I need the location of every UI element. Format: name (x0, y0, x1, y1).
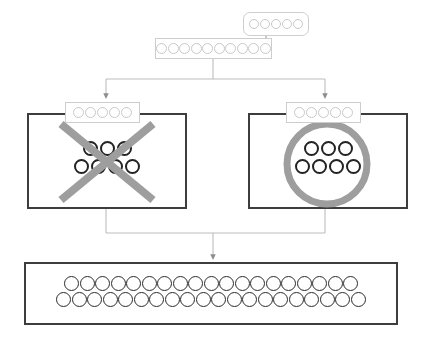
token-circle (72, 292, 87, 307)
branch-connector-right (213, 79, 325, 96)
token-circle (351, 292, 366, 307)
token-row (287, 103, 360, 122)
token-circle (91, 159, 106, 174)
token-circle (225, 43, 236, 54)
token-circle (64, 276, 79, 291)
token-row (295, 159, 361, 174)
token-circle (56, 292, 71, 307)
branch-header-box (286, 102, 361, 123)
token-circle (237, 43, 248, 54)
token-row (66, 103, 139, 122)
token-circle (289, 292, 304, 307)
token-circle (191, 43, 202, 54)
token-circle (260, 43, 271, 54)
token-circle (271, 19, 281, 29)
token-circle (156, 43, 167, 54)
token-circle (306, 107, 317, 118)
token-stack (26, 276, 396, 307)
branch-connector-left (106, 59, 213, 96)
token-circle (204, 276, 219, 291)
token-circle (321, 141, 336, 156)
token-circle (297, 276, 312, 291)
accepted-branch-box (248, 113, 408, 209)
token-circle (202, 43, 213, 54)
token-circle (73, 107, 84, 118)
token-circle (95, 276, 110, 291)
token-circle (329, 159, 344, 174)
token-circle (338, 141, 353, 156)
token-row (83, 141, 132, 156)
token-circle (320, 292, 335, 307)
token-row (74, 159, 140, 174)
token-row (156, 39, 271, 58)
token-circle (318, 107, 329, 118)
token-circle (134, 292, 149, 307)
token-circle (117, 141, 132, 156)
token-row (244, 13, 308, 35)
token-circle (227, 292, 242, 307)
token-row (64, 276, 358, 291)
token-stack (29, 141, 185, 174)
token-circle (188, 276, 203, 291)
token-circle (273, 292, 288, 307)
token-circle (214, 43, 225, 54)
token-circle (235, 276, 250, 291)
token-circle (179, 43, 190, 54)
token-stack (250, 141, 406, 174)
token-row (56, 292, 366, 307)
token-circle (103, 292, 118, 307)
token-circle (242, 292, 257, 307)
token-circle (118, 292, 133, 307)
token-circle (304, 292, 319, 307)
token-circle (80, 276, 95, 291)
token-circle (100, 141, 115, 156)
token-circle (97, 107, 108, 118)
token-circle (260, 19, 270, 29)
token-circle (85, 107, 96, 118)
token-circle (180, 292, 195, 307)
token-circle (211, 292, 226, 307)
output-sequence-box (24, 262, 398, 325)
token-circle (266, 276, 281, 291)
token-circle (196, 292, 211, 307)
token-circle (168, 43, 179, 54)
rejected-branch-box (27, 113, 187, 209)
diagram-canvas (0, 0, 421, 345)
token-circle (83, 141, 98, 156)
token-circle (126, 276, 141, 291)
token-circle (304, 141, 319, 156)
token-circle (125, 159, 140, 174)
token-circle (142, 276, 157, 291)
token-circle (248, 43, 259, 54)
token-circle (249, 19, 259, 29)
token-circle (121, 107, 132, 118)
token-circle (157, 276, 172, 291)
token-circle (250, 276, 265, 291)
token-circle (282, 19, 292, 29)
branch-header-box (65, 102, 140, 123)
token-circle (293, 19, 303, 29)
token-circle (330, 107, 341, 118)
merge-connector (106, 209, 325, 257)
token-circle (74, 159, 89, 174)
source-sequence-box (155, 38, 272, 59)
token-circle (219, 276, 234, 291)
token-circle (165, 292, 180, 307)
token-circle (109, 107, 120, 118)
token-circle (343, 276, 358, 291)
token-circle (328, 276, 343, 291)
callout-token-box (243, 12, 309, 36)
token-circle (173, 276, 188, 291)
token-circle (258, 292, 273, 307)
token-circle (87, 292, 102, 307)
token-circle (281, 276, 296, 291)
token-circle (342, 107, 353, 118)
token-circle (111, 276, 126, 291)
token-circle (312, 159, 327, 174)
token-circle (312, 276, 327, 291)
token-circle (108, 159, 123, 174)
token-circle (295, 159, 310, 174)
token-circle (335, 292, 350, 307)
token-circle (294, 107, 305, 118)
token-circle (346, 159, 361, 174)
